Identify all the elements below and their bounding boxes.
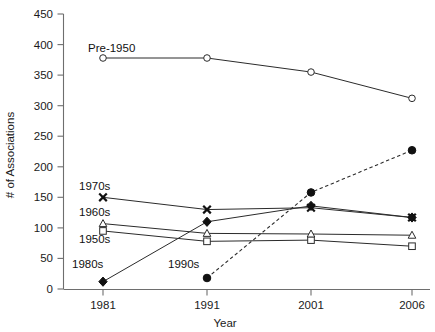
y-tick-label: 400 xyxy=(34,39,53,51)
series-label-1980s: 1980s xyxy=(72,258,104,270)
y-axis-title: # of Associations xyxy=(4,112,16,199)
data-point-marker xyxy=(409,243,416,250)
x-axis-ticks xyxy=(103,290,412,296)
x-axis: 1981 1991 2001 2006 Year xyxy=(64,290,431,330)
x-axis-title: Year xyxy=(213,317,236,329)
data-point-marker xyxy=(99,220,107,227)
data-point-marker xyxy=(308,237,315,244)
y-tick-label: 50 xyxy=(40,252,53,264)
y-tick-label: 150 xyxy=(34,191,53,203)
y-tick-label: 350 xyxy=(34,69,53,81)
data-point-marker xyxy=(203,274,211,282)
data-point-marker xyxy=(409,95,416,102)
data-point-marker xyxy=(100,55,107,62)
series-1970s xyxy=(99,194,416,222)
data-point-marker xyxy=(307,189,315,197)
x-axis-tick-labels: 1981 1991 2001 2006 xyxy=(90,299,425,311)
chart-plot-area: 0 50 100 150 200 250 300 350 400 450 # o… xyxy=(0,0,435,332)
series-layer xyxy=(99,55,416,287)
series-1950s xyxy=(100,228,416,250)
series-pre-1950 xyxy=(100,55,416,102)
y-tick-label: 200 xyxy=(34,161,53,173)
y-tick-label: 250 xyxy=(34,130,53,142)
y-tick-label: 450 xyxy=(34,8,53,20)
data-point-marker xyxy=(99,277,107,286)
y-tick-label: 0 xyxy=(47,283,53,295)
series-label-1950s: 1950s xyxy=(79,233,111,245)
series-label-pre-1950: Pre-1950 xyxy=(88,42,135,54)
y-axis-ticks xyxy=(58,14,64,289)
x-tick-label: 1991 xyxy=(194,299,220,311)
data-point-marker xyxy=(308,69,315,76)
series-label-1960s: 1960s xyxy=(79,206,111,218)
y-tick-label: 100 xyxy=(34,222,53,234)
series-annotations: Pre-1950 1970s 1960s 1950s 1980s 1990s xyxy=(72,42,200,270)
data-point-marker xyxy=(204,238,211,245)
y-axis: 0 50 100 150 200 250 300 350 400 450 # o… xyxy=(4,8,64,295)
series-label-1970s: 1970s xyxy=(79,180,111,192)
y-tick-label: 300 xyxy=(34,100,53,112)
x-tick-label: 1981 xyxy=(90,299,116,311)
y-axis-tick-labels: 0 50 100 150 200 250 300 350 400 450 xyxy=(34,8,53,295)
x-tick-label: 2006 xyxy=(399,299,425,311)
line-chart: 0 50 100 150 200 250 300 350 400 450 # o… xyxy=(0,0,435,332)
data-point-marker xyxy=(204,55,211,62)
data-point-marker xyxy=(203,217,211,226)
x-tick-label: 2001 xyxy=(298,299,324,311)
series-label-1990s: 1990s xyxy=(168,258,200,270)
data-point-marker xyxy=(408,146,416,154)
